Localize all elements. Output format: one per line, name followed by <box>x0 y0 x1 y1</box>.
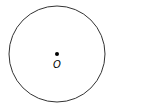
diagram-canvas: O <box>0 0 167 112</box>
center-point <box>55 52 59 56</box>
center-label: O <box>53 59 61 70</box>
